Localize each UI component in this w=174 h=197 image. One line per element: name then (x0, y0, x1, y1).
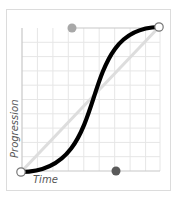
start-point-handle[interactable] (17, 168, 25, 176)
y-axis-label: Progression (9, 99, 20, 158)
control-point-1-handle[interactable] (112, 167, 121, 176)
end-point-handle[interactable] (155, 23, 163, 31)
x-axis-label: Time (33, 174, 58, 185)
control-point-2-handle[interactable] (68, 24, 77, 33)
timing-curve-diagram: Time Progression (0, 0, 174, 197)
